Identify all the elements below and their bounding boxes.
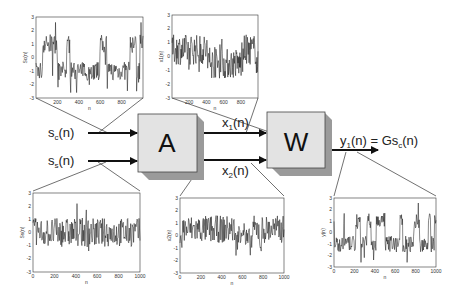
svg-text:400: 400 [75, 99, 84, 105]
input-label-sc: sc(n) [48, 125, 74, 142]
svg-text:1: 1 [28, 216, 31, 222]
mixer-block: A [138, 114, 204, 180]
separator-block: W [267, 112, 332, 176]
svg-text:0: 0 [333, 268, 336, 274]
svg-text:n: n [88, 105, 91, 111]
svg-text:800: 800 [237, 99, 246, 105]
svg-text:n: n [384, 274, 387, 280]
svg-text:-2: -2 [27, 255, 32, 261]
svg-text:1000: 1000 [278, 274, 289, 280]
svg-text:200: 200 [350, 268, 359, 274]
svg-text:200: 200 [185, 99, 194, 105]
svg-text:800: 800 [411, 268, 420, 274]
svg-text:-2: -2 [174, 257, 179, 263]
svg-text:0: 0 [28, 229, 31, 235]
separator-label: W [284, 127, 309, 157]
svg-text:3: 3 [167, 12, 170, 18]
svg-text:200: 200 [50, 273, 59, 279]
svg-text:-1: -1 [30, 68, 35, 74]
svg-text:-1: -1 [174, 245, 179, 251]
svg-text:3: 3 [175, 195, 178, 201]
plot-sc: -3-2-10123200400600800nSc(n) [22, 14, 143, 112]
svg-text:1000: 1000 [134, 273, 145, 279]
svg-text:y(n): y(n) [320, 228, 326, 237]
svg-text:-3: -3 [174, 270, 179, 276]
svg-text:400: 400 [371, 268, 380, 274]
signal-plots: -3-2-10123200400600800nSc(n)-3-2-1012320… [19, 12, 442, 287]
svg-text:2: 2 [175, 207, 178, 213]
svg-text:Ss(n): Ss(n) [19, 226, 25, 238]
bss-diagram: A W sc(n) ss(n) x1(n) x2(n) y1(n) = Gsc(… [0, 0, 465, 303]
plot-ss: -3-2-1012302004006008001000nSs(n) [19, 190, 146, 286]
svg-text:1: 1 [167, 39, 170, 45]
svg-text:3: 3 [329, 195, 332, 201]
svg-text:2: 2 [167, 25, 170, 31]
svg-text:-3: -3 [328, 264, 333, 270]
mixer-label: A [158, 128, 176, 158]
svg-text:-3: -3 [27, 269, 32, 275]
input-label-ss: ss(n) [48, 153, 74, 170]
plot-y1: -3-2-1012302004006008001000ny(n) [320, 195, 442, 281]
svg-text:0: 0 [167, 53, 170, 59]
svg-text:3: 3 [28, 190, 31, 196]
plot-x1: -3-2-10123200400600800nx1(n) [158, 12, 258, 112]
svg-text:x1(n): x1(n) [158, 50, 164, 62]
svg-text:800: 800 [259, 274, 268, 280]
mixed-label-x1: x1(n) [222, 115, 249, 132]
svg-text:800: 800 [114, 273, 123, 279]
svg-text:2: 2 [28, 203, 31, 209]
svg-text:1000: 1000 [430, 268, 441, 274]
svg-text:600: 600 [238, 274, 247, 280]
svg-text:-2: -2 [30, 81, 35, 87]
svg-text:0: 0 [175, 232, 178, 238]
svg-text:-3: -3 [166, 95, 171, 101]
svg-text:2: 2 [329, 206, 332, 212]
plot-x2: -3-2-1012302004006008001000nx2(n) [166, 195, 290, 287]
output-label: y1(n) = Gsc(n) [340, 133, 418, 150]
svg-text:0: 0 [179, 274, 182, 280]
svg-text:2: 2 [31, 27, 34, 33]
svg-text:600: 600 [96, 99, 105, 105]
svg-text:0: 0 [32, 273, 35, 279]
svg-text:-3: -3 [30, 95, 35, 101]
svg-text:800: 800 [117, 99, 126, 105]
svg-text:600: 600 [391, 268, 400, 274]
svg-text:200: 200 [197, 274, 206, 280]
mixed-label-x2: x2(n) [222, 163, 249, 180]
signal-arrows [88, 133, 378, 161]
svg-text:-2: -2 [328, 252, 333, 258]
svg-text:600: 600 [93, 273, 102, 279]
svg-text:400: 400 [72, 273, 81, 279]
svg-text:400: 400 [217, 274, 226, 280]
svg-text:n: n [85, 279, 88, 285]
svg-text:-1: -1 [166, 67, 171, 73]
svg-text:x2(n): x2(n) [166, 229, 172, 241]
svg-text:1: 1 [31, 41, 34, 47]
svg-text:0: 0 [329, 229, 332, 235]
svg-text:n: n [231, 280, 234, 286]
svg-text:-1: -1 [328, 241, 333, 247]
svg-text:n: n [214, 105, 217, 111]
svg-text:200: 200 [53, 99, 62, 105]
svg-text:-1: -1 [27, 242, 32, 248]
svg-text:1: 1 [329, 218, 332, 224]
svg-text:Sc(n): Sc(n) [22, 51, 28, 63]
svg-text:3: 3 [31, 14, 34, 20]
svg-text:1: 1 [175, 220, 178, 226]
svg-text:-2: -2 [166, 81, 171, 87]
svg-text:400: 400 [202, 99, 211, 105]
svg-text:600: 600 [219, 99, 228, 105]
svg-text:0: 0 [31, 54, 34, 60]
